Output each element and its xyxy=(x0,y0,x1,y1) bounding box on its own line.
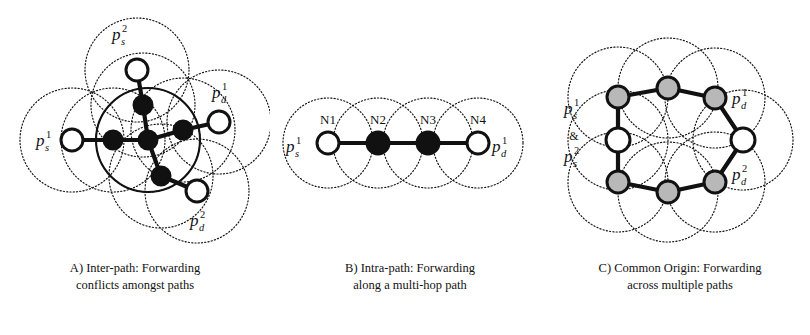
node-up-left[interactable] xyxy=(607,86,629,108)
node-dest[interactable] xyxy=(731,128,755,152)
panel-a-caption-line1: A) Inter-path: Forwarding xyxy=(0,260,270,277)
dest-2-label: p2d xyxy=(731,163,747,187)
path-label-subscript: s xyxy=(45,142,49,153)
panel-b-caption-line2: along a multi-hop path xyxy=(270,277,550,294)
panel-c-caption-line2: across multiple paths xyxy=(550,277,810,294)
path-label-base: p xyxy=(35,131,45,150)
panel-c: p1sp2sp1dp2d& C) Common Origin: Forwardi… xyxy=(550,0,810,335)
node-n3[interactable] xyxy=(417,132,439,154)
node-s1[interactable] xyxy=(61,129,83,151)
panel-a-diagram: p1sp2sp1dp2d xyxy=(0,0,270,255)
path-label-superscript: 1 xyxy=(742,87,747,98)
node-name-label: N4 xyxy=(470,112,486,127)
source-1-label: p1s xyxy=(563,97,579,121)
node-d2[interactable] xyxy=(186,180,208,202)
panel-c-caption: C) Common Origin: Forwarding across mult… xyxy=(550,260,810,294)
source-1-label: p1s xyxy=(35,129,51,153)
node-a1[interactable] xyxy=(104,131,122,149)
panel-c-caption-line1: C) Common Origin: Forwarding xyxy=(550,260,810,277)
path-label-base: p xyxy=(189,211,199,230)
path-label-base: p xyxy=(285,137,295,156)
panel-b-caption: B) Intra-path: Forwarding along a multi-… xyxy=(270,260,550,294)
transmission-range-group xyxy=(568,38,793,242)
source-2-label: p2s xyxy=(563,145,579,169)
node-d1[interactable] xyxy=(208,111,230,133)
source-2-label: p2s xyxy=(111,23,127,47)
dest-1-label: p1d xyxy=(491,135,507,159)
node-a2[interactable] xyxy=(134,96,152,114)
node-origin[interactable] xyxy=(606,128,630,152)
path-label-subscript: s xyxy=(573,158,577,169)
path-label-base: p xyxy=(111,25,121,44)
panel-b-caption-line1: B) Intra-path: Forwarding xyxy=(270,260,550,277)
node-n4[interactable] xyxy=(467,132,489,154)
path-label-subscript: d xyxy=(221,94,227,105)
path-label-superscript: 1 xyxy=(222,81,227,92)
path-label-superscript: 2 xyxy=(574,145,579,156)
dest-1-label: p1d xyxy=(731,87,747,111)
path-conjunction-label: & xyxy=(569,129,579,143)
node-down-left[interactable] xyxy=(607,171,629,193)
path-label-subscript: s xyxy=(573,110,577,121)
path-label-base: p xyxy=(731,89,741,108)
panel-a: p1sp2sp1dp2d A) Inter-path: Forwarding c… xyxy=(0,0,270,335)
path-label-superscript: 1 xyxy=(296,135,301,146)
panel-a-caption: A) Inter-path: Forwarding conflicts amon… xyxy=(0,260,270,294)
path-label-base: p xyxy=(731,165,741,184)
path-label-subscript: d xyxy=(501,148,507,159)
node-name-label: N2 xyxy=(370,112,386,127)
figure-root: p1sp2sp1dp2d A) Inter-path: Forwarding c… xyxy=(0,0,810,335)
node-n2[interactable] xyxy=(367,132,389,154)
node-up-right[interactable] xyxy=(704,87,726,109)
source-1-label: p1s xyxy=(285,135,301,159)
path-label-base: p xyxy=(211,83,221,102)
path-label-subscript: s xyxy=(295,148,299,159)
node-up-mid[interactable] xyxy=(657,77,679,99)
path-label-base: p xyxy=(563,99,573,118)
panel-c-diagram: p1sp2sp1dp2d& xyxy=(550,0,810,255)
path-label-superscript: 1 xyxy=(574,97,579,108)
path-label-superscript: 1 xyxy=(46,129,51,140)
path-label-subscript: d xyxy=(199,222,205,233)
node-down-right[interactable] xyxy=(704,171,726,193)
path-label-subscript: s xyxy=(121,36,125,47)
node-s2[interactable] xyxy=(126,59,148,81)
node-down-mid[interactable] xyxy=(657,181,679,203)
panel-a-caption-line2: conflicts amongst paths xyxy=(0,277,270,294)
path-label-subscript: d xyxy=(741,176,747,187)
dest-1-label: p1d xyxy=(211,81,227,105)
node-name-label: N3 xyxy=(420,112,436,127)
node-n1[interactable] xyxy=(317,132,339,154)
path-label-superscript: 2 xyxy=(200,209,205,220)
path-label-superscript: 2 xyxy=(122,23,127,34)
panel-b-diagram: N1N2N3N4p1sp1d xyxy=(270,0,550,255)
node-name-label: N1 xyxy=(320,112,336,127)
node-a3[interactable] xyxy=(174,121,192,139)
dest-2-label: p2d xyxy=(189,209,205,233)
panel-b: N1N2N3N4p1sp1d B) Intra-path: Forwarding… xyxy=(270,0,550,335)
node-a4[interactable] xyxy=(152,167,170,185)
path-label-base: p xyxy=(563,147,573,166)
path-label-superscript: 2 xyxy=(742,163,747,174)
path-label-superscript: 1 xyxy=(502,135,507,146)
path-label-subscript: d xyxy=(741,100,747,111)
node-center[interactable] xyxy=(139,131,157,149)
path-label-base: p xyxy=(491,137,501,156)
